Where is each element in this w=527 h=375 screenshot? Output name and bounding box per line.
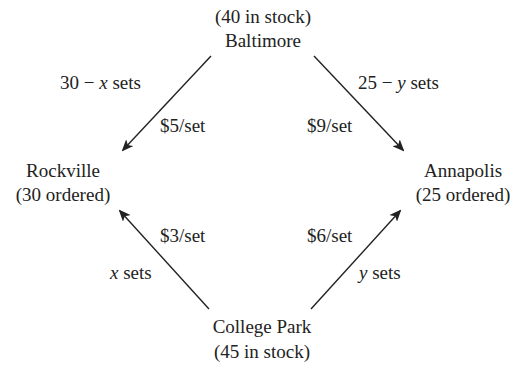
edge-baltimore-rockville-cost: $5/set	[160, 115, 205, 137]
baltimore-name: Baltimore	[225, 30, 301, 52]
qty-prefix: 25 −	[358, 72, 397, 93]
edge-baltimore-annapolis-cost: $9/set	[307, 115, 352, 137]
edge-collegepark-rockville-cost: $3/set	[160, 225, 205, 247]
qty-suffix: sets	[406, 72, 439, 93]
edge-collegepark-annapolis-qty: y sets	[359, 262, 401, 284]
qty-suffix: sets	[118, 262, 151, 283]
edge-collegepark-rockville-qty: x sets	[110, 262, 152, 284]
baltimore-stock: (40 in stock)	[215, 6, 311, 28]
qty-suffix: sets	[367, 262, 400, 283]
collegepark-name: College Park	[213, 316, 312, 338]
rockville-name: Rockville	[26, 160, 100, 182]
annapolis-name: Annapolis	[424, 160, 502, 182]
edge-collegepark-annapolis-cost: $6/set	[307, 225, 352, 247]
qty-var: x	[99, 72, 107, 93]
edge-baltimore-annapolis-qty: 25 − y sets	[358, 72, 439, 94]
qty-suffix: sets	[108, 72, 141, 93]
qty-prefix: 30 −	[60, 72, 99, 93]
rockville-order: (30 ordered)	[16, 184, 110, 206]
edge-baltimore-rockville-qty: 30 − x sets	[60, 72, 141, 94]
qty-var: y	[397, 72, 405, 93]
annapolis-order: (25 ordered)	[416, 184, 510, 206]
collegepark-stock: (45 in stock)	[214, 341, 310, 363]
